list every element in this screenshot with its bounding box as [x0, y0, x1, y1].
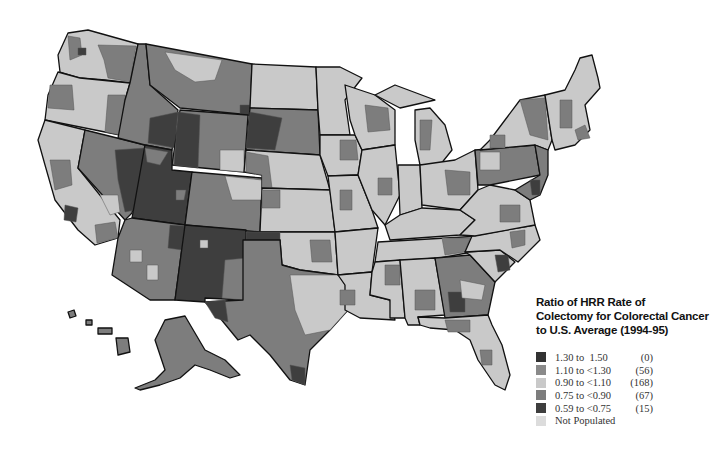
legend-list: 1.30 to 1.50 (0) 1.10 to <1.30 (56) 0.90…: [536, 351, 713, 427]
legend-count: (67): [621, 390, 653, 401]
swatch-icon: [536, 365, 546, 375]
legend-range: 0.59 to <0.75: [555, 403, 621, 414]
legend-range: 0.90 to <1.10: [555, 377, 621, 388]
swatch-icon: [536, 403, 546, 413]
state-new-mexico: [175, 225, 246, 302]
legend-title-line-1: Ratio of HRR Rate of: [536, 295, 713, 309]
legend-count: (0): [621, 352, 653, 363]
legend-item: 1.30 to 1.50 (0): [536, 351, 713, 364]
state-new-england: [545, 55, 600, 150]
state-wyoming: [172, 110, 248, 172]
state-arkansas: [335, 228, 378, 275]
legend-title-line-2: Colectomy for Colorectal Cancer: [536, 309, 713, 323]
state-pennsylvania: [475, 145, 540, 185]
state-alaska: [135, 316, 240, 390]
legend-item: 0.59 to <0.75 (15): [536, 402, 713, 415]
swatch-icon: [536, 378, 546, 388]
legend-range: Not Populated: [555, 415, 621, 426]
swatch-icon: [536, 390, 546, 400]
legend-item: Not Populated: [536, 414, 713, 427]
legend-title: Ratio of HRR Rate of Colectomy for Color…: [536, 295, 713, 337]
state-arizona: [112, 218, 185, 300]
state-kansas: [260, 188, 335, 232]
legend-item: 0.90 to <1.10 (168): [536, 376, 713, 389]
legend-range: 1.10 to <1.30: [555, 365, 621, 376]
state-florida: [418, 315, 510, 390]
legend-count: (15): [621, 403, 653, 414]
state-colorado: [185, 172, 262, 232]
state-north-dakota: [250, 64, 318, 110]
swatch-icon: [536, 416, 546, 426]
swatch-icon: [536, 352, 546, 362]
legend-item: 0.75 to <0.90 (67): [536, 389, 713, 402]
legend-count: (56): [621, 365, 653, 376]
state-iowa: [320, 135, 362, 176]
state-new-york: [480, 95, 552, 150]
map-legend: Ratio of HRR Rate of Colectomy for Color…: [536, 295, 713, 427]
legend-title-line-3: to U.S. Average (1994-95): [536, 323, 713, 337]
legend-range: 0.75 to <0.90: [555, 390, 621, 401]
legend-count: (168): [621, 377, 653, 388]
legend-item: 1.10 to <1.30 (56): [536, 364, 713, 377]
state-south-dakota: [246, 108, 320, 155]
state-indiana: [398, 165, 422, 215]
state-hawaii: [68, 310, 130, 355]
legend-range: 1.30 to 1.50: [555, 352, 621, 363]
